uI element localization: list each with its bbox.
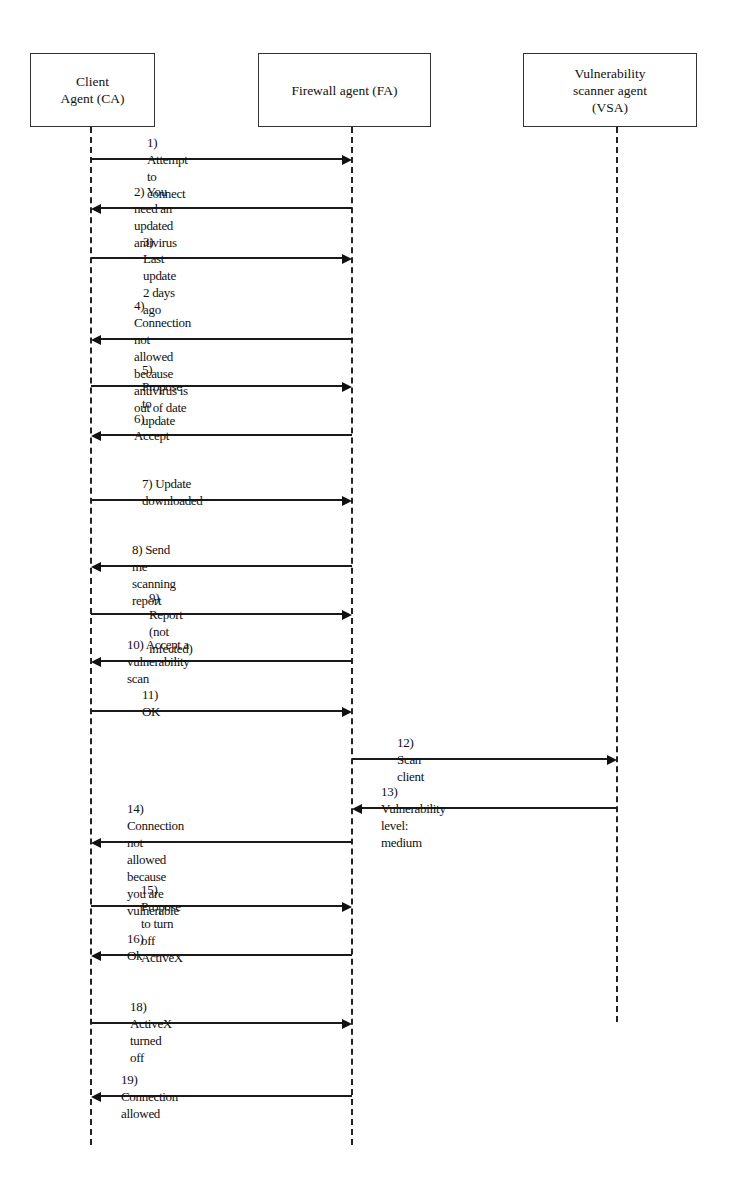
arrow-right-icon (342, 610, 352, 620)
arrow-left-icon (91, 951, 101, 961)
arrow-right-icon (342, 254, 352, 264)
message-arrow-line (91, 905, 344, 907)
message-arrow-line (91, 257, 344, 259)
message-label: 16) Ok (127, 930, 143, 964)
message-label: 18) ActiveX turned off (130, 998, 172, 1066)
arrow-right-icon (342, 496, 352, 506)
actor-label: Vulnerability scanner agent (VSA) (573, 65, 647, 116)
message-label: 13) Vulnerability level: medium (381, 783, 446, 851)
arrow-left-icon (91, 562, 101, 572)
message-label: 19) Connection allowed (121, 1071, 178, 1122)
message-label: 11) OK (142, 686, 160, 720)
lifeline-fa (351, 127, 353, 1145)
lifeline-ca (90, 127, 92, 1145)
arrow-right-icon (342, 902, 352, 912)
arrow-left-icon (91, 1092, 101, 1102)
message-label: 10) Accept a vulnerability scan (127, 636, 190, 687)
actor-label: Client Agent (CA) (60, 73, 124, 107)
message-label: 12) Scan client (397, 734, 424, 785)
arrow-left-icon (91, 838, 101, 848)
arrow-right-icon (607, 755, 617, 765)
message-arrow-line (91, 499, 344, 501)
arrow-right-icon (342, 382, 352, 392)
actor-box-ca: Client Agent (CA) (30, 53, 155, 127)
arrow-left-icon (91, 335, 101, 345)
arrow-right-icon (342, 1019, 352, 1029)
arrow-right-icon (342, 155, 352, 165)
message-label: 7) Update downloaded (142, 475, 203, 509)
message-arrow-line (91, 613, 344, 615)
arrow-left-icon (352, 804, 362, 814)
actor-box-vsa: Vulnerability scanner agent (VSA) (523, 53, 697, 127)
message-label: 6) Accept (134, 410, 169, 444)
arrow-left-icon (91, 431, 101, 441)
sequence-diagram: Client Agent (CA)Firewall agent (FA)Vuln… (0, 0, 731, 1185)
actor-label: Firewall agent (FA) (291, 82, 397, 99)
message-arrow-line (91, 385, 344, 387)
lifeline-vsa (616, 127, 618, 1022)
actor-box-fa: Firewall agent (FA) (258, 53, 431, 127)
message-arrow-line (91, 1022, 344, 1024)
arrow-left-icon (91, 657, 101, 667)
message-arrow-line (352, 758, 609, 760)
arrow-right-icon (342, 707, 352, 717)
message-arrow-line (91, 710, 344, 712)
arrow-left-icon (91, 204, 101, 214)
message-arrow-line (91, 158, 344, 160)
